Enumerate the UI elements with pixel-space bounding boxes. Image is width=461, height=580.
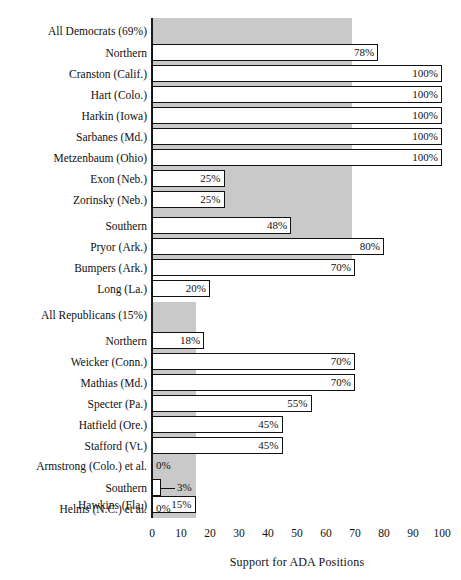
- row-label: Cranston (Calif.): [2, 68, 147, 80]
- row-label: Metzenbaum (Ohio): [2, 152, 147, 164]
- bar-value-label: 78%: [344, 47, 374, 58]
- bar-value-label: 45%: [249, 419, 279, 430]
- bar: [152, 479, 161, 496]
- bar: [152, 128, 442, 145]
- row-label: Specter (Pa.): [2, 398, 147, 410]
- bar-value-label: 70%: [321, 377, 351, 388]
- bar: [152, 107, 442, 124]
- row-label: Sarbanes (Md.): [2, 131, 147, 143]
- value-leader-line: [161, 488, 175, 489]
- bar-value-label: 3%: [177, 482, 192, 493]
- page-bleed-through-text: [0, 0, 461, 14]
- group-label: All Republicans (15%): [2, 309, 147, 321]
- bar-value-label: 48%: [257, 220, 287, 231]
- bar-value-label: 80%: [350, 241, 380, 252]
- row-label: Bumpers (Ark.): [2, 262, 147, 274]
- bar: [152, 86, 442, 103]
- row-label: Northern: [2, 335, 147, 347]
- row-label: Weicker (Conn.): [2, 356, 147, 368]
- row-label: Hatfield (Ore.): [2, 419, 147, 431]
- bar-value-label: 100%: [408, 131, 438, 142]
- row-label: Mathias (Md.): [2, 377, 147, 389]
- bar-value-label: 20%: [176, 283, 206, 294]
- row-label: Hart (Colo.): [2, 89, 147, 101]
- row-label: Stafford (Vt.): [2, 440, 147, 452]
- bar-value-label: 70%: [321, 356, 351, 367]
- bar-value-label: 25%: [191, 173, 221, 184]
- row-label: Long (La.): [2, 283, 147, 295]
- row-label: Southern: [2, 482, 147, 494]
- row-label: Armstrong (Colo.) et al.: [2, 460, 147, 472]
- bar-value-label: 18%: [170, 335, 200, 346]
- row-label: Southern: [2, 220, 147, 232]
- bar-value-label: 100%: [408, 89, 438, 100]
- row-label: Zorinsky (Neb.): [2, 194, 147, 206]
- bar-value-label: 25%: [191, 194, 221, 205]
- bar-value-label: 100%: [408, 110, 438, 121]
- row-label: Exon (Neb.): [2, 173, 147, 185]
- group-label: All Democrats (69%): [2, 25, 147, 37]
- x-axis-tick-label: 100: [422, 527, 461, 539]
- bar-value-label: 0%: [156, 460, 171, 471]
- row-label: Harkin (Iowa): [2, 110, 147, 122]
- bar-value-label: 0%: [156, 503, 171, 514]
- row-label: Northern: [2, 47, 147, 59]
- row-label: Helms (N.C.) et al.: [2, 503, 147, 515]
- ada-support-bar-chart: All Democrats (69%)Northern78%Cranston (…: [0, 0, 461, 580]
- bar-value-label: 70%: [321, 262, 351, 273]
- bar-value-label: 55%: [278, 398, 308, 409]
- bar: [152, 149, 442, 166]
- bar-value-label: 45%: [249, 440, 279, 451]
- row-label: Pryor (Ark.): [2, 241, 147, 253]
- x-axis-title: Support for ADA Positions: [152, 556, 442, 569]
- bar-value-label: 100%: [408, 68, 438, 79]
- bar: [152, 65, 442, 82]
- bar-value-label: 100%: [408, 152, 438, 163]
